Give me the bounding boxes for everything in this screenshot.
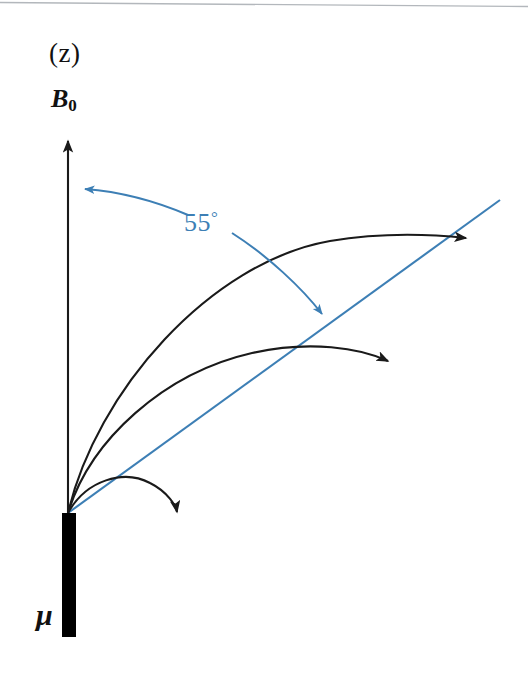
z-axis-label: (z) (49, 40, 80, 67)
magnetic-moment-label: μ (36, 600, 53, 630)
b0-field-label: B0 (51, 86, 77, 114)
b0-field-symbol: B (51, 84, 68, 113)
diagram-svg (0, 0, 528, 685)
magic-angle-line (68, 200, 500, 513)
precession-arc-outer (68, 235, 466, 513)
precession-arc-inner (68, 477, 177, 513)
precession-arc-middle (68, 346, 388, 513)
magic-angle-label: 55° (184, 209, 218, 236)
degree-sign-icon: ° (211, 208, 218, 227)
angle-arc-left-segment (85, 189, 188, 215)
page-edge-line (0, 3, 528, 7)
z-axis-label-text: (z) (49, 38, 80, 68)
figure-canvas: (z) B0 55° μ (0, 0, 528, 685)
magnetic-moment-symbol: μ (36, 598, 53, 631)
magic-angle-value: 55 (184, 208, 211, 237)
b0-field-subscript: 0 (68, 96, 77, 115)
magnetic-moment-bar (62, 513, 76, 637)
